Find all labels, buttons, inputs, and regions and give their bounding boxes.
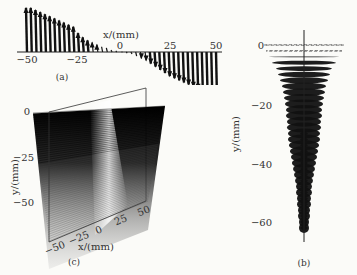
y-axis-label: y/(mm) [230,116,241,153]
panel-a-plot: −50 −25 0 25 50 x/(mm) (a) [0,0,235,85]
panel-label-b: (b) [298,258,311,268]
y-tick: −50 [13,197,34,208]
x-tick: 0 [117,40,123,51]
x-tick: 25 [164,40,177,51]
panel-c-plot: 0 −25 −50 y/(mm) −50 −25 0 25 50 x/(mm) … [0,85,200,275]
x-axis-label: x/(mm) [103,29,139,40]
panel-label-a: (a) [56,72,68,82]
panel-b-plot: 0 −20 −40 −60 y/(mm) (b) [220,20,357,275]
y-tick: 0 [258,40,264,51]
panel-c: 0 −25 −50 y/(mm) −50 −25 0 25 50 x/(mm) … [0,85,200,275]
x-tick: −25 [66,54,87,65]
x-tick: −50 [16,54,37,65]
panel-a: −50 −25 0 25 50 x/(mm) (a) [0,0,235,85]
panel-label-c: (c) [68,257,80,267]
y-tick: −40 [251,159,272,170]
y-tick: 0 [24,106,30,117]
panel-b: 0 −20 −40 −60 y/(mm) (b) [220,20,357,275]
y-tick: −60 [251,217,272,228]
y-axis-label: y/(mm) [9,159,20,196]
x-axis-label: x/(mm) [78,241,114,252]
y-tick: −20 [251,100,272,111]
